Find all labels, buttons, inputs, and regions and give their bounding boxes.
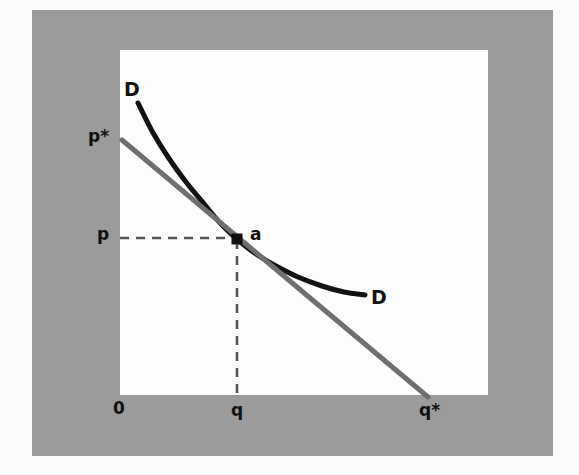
- axis-label-q-star: q*: [419, 402, 440, 419]
- figure-root: DDp*pa0qq*: [0, 0, 579, 475]
- tangency-marker: [232, 234, 243, 245]
- axis-label-origin: 0: [113, 400, 125, 417]
- curve-label-bottom: D: [371, 288, 387, 307]
- guides-layer: [120, 238, 237, 396]
- axis-label-q: q: [231, 402, 243, 419]
- demand-curve: [138, 103, 365, 295]
- tangent-line-at-a: [122, 140, 428, 397]
- axis-label-p: p: [97, 226, 109, 243]
- series-layer: [122, 103, 428, 397]
- plot-overlay: [0, 0, 579, 475]
- point-label-a: a: [250, 226, 261, 243]
- axis-label-p-star: p*: [88, 128, 109, 145]
- curve-label-top: D: [124, 80, 140, 99]
- markers-layer: [232, 234, 243, 245]
